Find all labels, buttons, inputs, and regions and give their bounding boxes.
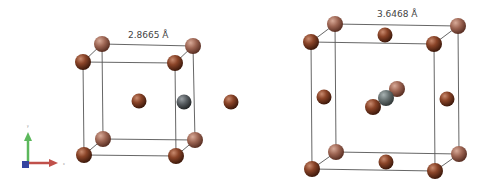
fe-face-center-atom (378, 28, 393, 43)
y-axis-label: y (27, 124, 29, 128)
x-axis-label: x (63, 162, 65, 166)
fe-face-center-atom (365, 99, 381, 115)
fe-atom (327, 16, 343, 32)
axes-triad: y x (22, 124, 65, 168)
fe-atom (168, 148, 184, 164)
fe-atom (426, 36, 442, 52)
fe-atom (185, 38, 201, 54)
fe-atom (303, 34, 319, 50)
fe-atom (427, 163, 443, 179)
fe-atom (95, 131, 111, 147)
fe-neighbor-atom (224, 95, 239, 110)
fe-atom (450, 18, 466, 34)
fe-face-center-atom (440, 92, 455, 107)
carbon-interstitial-atom (378, 90, 394, 106)
fe-atom (75, 54, 91, 70)
fe-atom (94, 36, 110, 52)
fe-body-center-atom (132, 94, 147, 109)
z-axis-marker (22, 161, 29, 168)
fe-face-center-atom (379, 155, 394, 170)
fcc-unit-cell: 3.6468 Å (303, 8, 467, 179)
fe-atom (76, 147, 92, 163)
fe-atom (328, 144, 344, 160)
fe-atom (304, 161, 320, 177)
fe-face-center-atom (317, 90, 332, 105)
fe-atom (451, 146, 467, 162)
bcc-unit-cell: 2.8665 Å (75, 29, 239, 164)
fe-atom (167, 55, 183, 71)
lattice-parameter-label: 3.6468 Å (377, 8, 418, 19)
lattice-parameter-label: 2.8665 Å (128, 29, 169, 40)
y-arrowhead-icon (24, 132, 32, 141)
fe-atom (187, 132, 203, 148)
x-arrowhead-icon (49, 159, 58, 167)
carbon-interstitial-atom (177, 95, 192, 110)
